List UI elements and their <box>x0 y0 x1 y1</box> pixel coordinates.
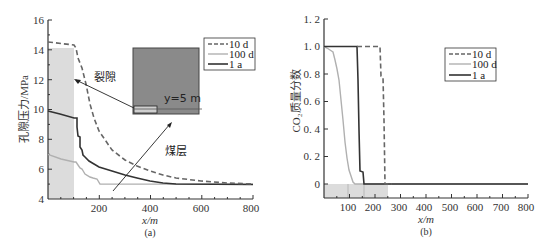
shaded-fracture-region <box>48 48 74 199</box>
figure: 4 6 8 10 12 14 16 200 400 600 800 x/m 孔隙… <box>0 0 554 249</box>
legend-a: 10 d 100 d 1 a <box>204 38 255 70</box>
xtick-label: 700 <box>493 201 510 213</box>
ytick-label: 1. 0 <box>304 40 321 52</box>
series-1a <box>324 47 528 185</box>
ytick-label: 12 <box>33 74 44 86</box>
x-axis-title: x/m <box>141 214 158 226</box>
ytick-label: 16 <box>33 14 45 26</box>
ytick-label: 1. 2 <box>304 13 321 25</box>
chart-a: 4 6 8 10 12 14 16 200 400 600 800 x/m 孔隙… <box>17 14 260 239</box>
xtick-label: 800 <box>243 202 260 214</box>
caption-a: (a) <box>144 227 155 239</box>
ytick-label: 10 <box>33 103 45 115</box>
chart-b: 0 0. 2 0. 4 0. 6 0. 8 1. 0 1. 2 100 200 … <box>290 13 535 238</box>
series-1a <box>48 111 253 185</box>
inset-schematic: y=5 m <box>133 48 202 114</box>
arrow-fracture <box>76 80 134 108</box>
shaded-region <box>324 184 388 198</box>
x-axis-title: x/m <box>417 213 434 225</box>
legend-label: 1 a <box>229 58 242 70</box>
ytick-label: 0. 4 <box>304 123 321 135</box>
xtick-label: 300 <box>391 201 408 213</box>
xtick-label: 600 <box>467 201 484 213</box>
annotation-fracture: 裂隙 <box>94 70 116 84</box>
xtick-label: 400 <box>142 202 159 214</box>
xtick-label: 200 <box>365 201 382 213</box>
ytick-label: 8 <box>39 133 45 145</box>
ytick-label: 0 <box>315 178 321 190</box>
arrow-coal <box>113 124 170 191</box>
xtick-label: 200 <box>91 202 108 214</box>
y-axis-title: 孔隙压力/MPa <box>17 75 30 143</box>
xtick-label: 800 <box>518 201 535 213</box>
xtick-label: 500 <box>442 201 459 213</box>
legend-label: 1 a <box>472 69 485 81</box>
legend-b: 10 d 100 d 1 a <box>445 48 497 81</box>
ytick-label: 4 <box>39 193 45 205</box>
ytick-label: 0. 8 <box>304 68 321 80</box>
xtick-label: 100 <box>340 201 357 213</box>
y-axis-title: CO₂质量分数 <box>290 69 302 132</box>
xtick-label: 600 <box>193 202 210 214</box>
ytick-label: 0. 2 <box>304 150 321 162</box>
ytick-label: 6 <box>39 163 45 175</box>
inset-label: y=5 m <box>164 92 201 105</box>
caption-b: (b) <box>420 226 432 238</box>
xtick-label: 400 <box>416 201 433 213</box>
series-10d <box>357 47 392 185</box>
series-100d <box>48 154 253 184</box>
inset-fracture <box>134 106 157 113</box>
ytick-label: 14 <box>33 44 45 56</box>
ytick-label: 0. 6 <box>304 95 321 107</box>
series-100d <box>324 47 528 185</box>
annotation-coal-seam: 煤层 <box>165 145 187 158</box>
